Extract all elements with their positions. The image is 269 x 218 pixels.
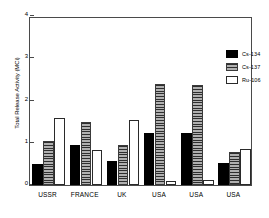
legend-item-cs-134[interactable]: Cs-134 bbox=[226, 48, 269, 60]
y-tick-label: 3 bbox=[25, 53, 28, 59]
bar-group bbox=[218, 18, 251, 185]
bar-ru-106-france-1 bbox=[92, 150, 103, 185]
bar-cs-137-uk-2 bbox=[118, 145, 129, 185]
bar-group bbox=[107, 18, 140, 185]
bar-cs-137-usa-4 bbox=[192, 85, 203, 185]
plot-area: 01234 Cs-134Cs-137Ru-106 bbox=[29, 17, 252, 186]
x-axis-label: USA bbox=[141, 191, 178, 198]
bar-cs-137-france-1 bbox=[81, 122, 92, 185]
x-axis-label: UK bbox=[103, 191, 140, 198]
y-tick: 4 bbox=[30, 15, 34, 16]
y-axis-title: Total Release Activity (MCi) bbox=[10, 0, 24, 186]
legend-item-cs-137[interactable]: Cs-137 bbox=[226, 61, 269, 73]
legend-swatch-ru-106 bbox=[226, 76, 238, 84]
bar-cs-134-uk-2 bbox=[107, 161, 118, 186]
bar-ru-106-usa-5 bbox=[240, 149, 251, 185]
legend-label: Ru-106 bbox=[242, 77, 261, 83]
x-axis-label: FRANCE bbox=[66, 191, 103, 198]
bar-cs-134-ussr-0 bbox=[32, 164, 43, 185]
y-tick-label: 2 bbox=[25, 96, 28, 102]
bar-ru-106-uk-2 bbox=[129, 120, 140, 185]
y-axis-title-text: Total Release Activity (MCi) bbox=[14, 57, 20, 129]
bar-cs-134-france-1 bbox=[70, 145, 81, 185]
bar-ru-106-usa-4 bbox=[203, 180, 214, 185]
legend-item-ru-106[interactable]: Ru-106 bbox=[226, 74, 269, 86]
bar-ru-106-usa-3 bbox=[166, 181, 177, 185]
bar-cs-137-usa-3 bbox=[155, 84, 166, 185]
bar-cs-137-ussr-0 bbox=[43, 141, 54, 185]
bar-cs-134-usa-4 bbox=[181, 133, 192, 185]
bar-group bbox=[181, 18, 214, 185]
x-axis-label: USSR bbox=[29, 191, 66, 198]
bar-ru-106-ussr-0 bbox=[54, 118, 65, 185]
legend-swatch-cs-134 bbox=[226, 50, 238, 58]
y-tick-label: 0 bbox=[25, 180, 28, 186]
legend-label: Cs-134 bbox=[242, 51, 260, 57]
bar-cs-134-usa-5 bbox=[218, 163, 229, 185]
bar-group bbox=[32, 18, 65, 185]
y-tick-label: 1 bbox=[25, 138, 28, 144]
chart-legend: Cs-134Cs-137Ru-106 bbox=[226, 48, 269, 87]
bar-cs-134-usa-3 bbox=[144, 133, 155, 185]
bar-group bbox=[144, 18, 177, 185]
legend-label: Cs-137 bbox=[242, 64, 260, 70]
bar-groups bbox=[30, 18, 251, 185]
x-axis-label: USA bbox=[178, 191, 215, 198]
chart-figure: Total Release Activity (MCi) 01234 Cs-13… bbox=[0, 0, 269, 218]
x-axis-labels: USSRFRANCEUKUSAUSAUSA bbox=[29, 191, 252, 205]
bar-group bbox=[70, 18, 103, 185]
x-axis-label: USA bbox=[215, 191, 252, 198]
bar-cs-137-usa-5 bbox=[229, 152, 240, 185]
legend-swatch-cs-137 bbox=[226, 63, 238, 71]
y-tick-label: 4 bbox=[25, 11, 28, 17]
